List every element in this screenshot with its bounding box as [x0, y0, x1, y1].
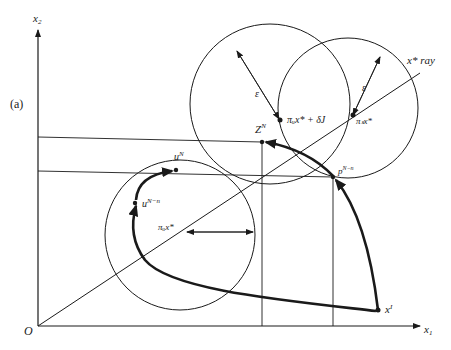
point-u-N	[174, 168, 178, 172]
ray-label: x* ray	[406, 54, 435, 66]
phase-diagram: (a) x2 x1 O x* ray ε ε πᵤx* + δJ πₛx* ZN…	[0, 0, 451, 350]
panel-label: (a)	[10, 97, 23, 111]
epsilon-arrow-right-head	[353, 57, 380, 115]
label-pi-s-x-star: πₛx*	[356, 116, 373, 126]
guide-horizontal-z	[38, 137, 262, 142]
trajectory-to-p	[336, 180, 378, 310]
label-pi-u-x-star-delta: πᵤx* + δJ	[287, 114, 326, 125]
point-p-N-n	[331, 175, 335, 179]
label-p-N-n: pN−n	[337, 165, 354, 176]
label-pi-u-x-star: πᵤx*	[158, 222, 174, 232]
guide-horizontal-p	[38, 171, 333, 177]
y-axis-label: x2	[32, 12, 42, 26]
trajectory-u-to-uN	[136, 171, 172, 200]
circle-left	[105, 160, 255, 310]
origin-label: O	[24, 324, 33, 338]
point-pi-u-x-star-delta	[278, 118, 283, 123]
label-Z-N: ZN	[255, 122, 266, 135]
circle-right	[278, 38, 418, 178]
x-star-ray	[38, 73, 420, 326]
x-axis-label: x1	[423, 323, 432, 337]
point-u-N-n	[133, 201, 137, 205]
point-pi-s-x-star	[351, 113, 356, 118]
label-u-N-n: uN−n	[142, 197, 160, 209]
epsilon-label-right: ε	[362, 82, 366, 93]
point-x-I	[376, 308, 381, 313]
epsilon-arrow-middle-head	[237, 51, 279, 119]
epsilon-label-middle: ε	[255, 88, 259, 99]
label-x-I: xI	[384, 303, 393, 315]
point-Z-N	[260, 140, 264, 144]
